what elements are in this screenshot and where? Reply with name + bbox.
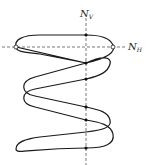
diagram-canvas: NV NH <box>0 0 148 165</box>
open-point-right <box>111 45 115 49</box>
filled-point <box>84 146 87 149</box>
open-point-left <box>14 45 18 49</box>
filled-point <box>84 118 87 121</box>
filled-point <box>84 33 87 36</box>
filled-point <box>84 61 87 64</box>
label-nv: NV <box>79 8 94 20</box>
closed-curve <box>16 35 114 151</box>
filled-point <box>84 105 87 108</box>
label-nh: NH <box>127 41 143 53</box>
filled-point <box>84 77 87 80</box>
